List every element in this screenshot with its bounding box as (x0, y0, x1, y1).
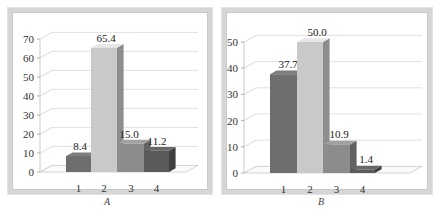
x-tick-label: 3 (334, 183, 340, 195)
y-tick-label: 50 (23, 71, 35, 83)
bar-4 (144, 147, 176, 172)
data-label: 1.4 (359, 153, 373, 165)
y-tick-label: 0 (29, 166, 35, 178)
y-tick-label: 50 (227, 36, 239, 48)
y-tick-label: 20 (23, 128, 35, 140)
data-label: 37.7 (278, 58, 298, 70)
data-label: 65.4 (96, 32, 116, 44)
y-tick-label: 0 (233, 167, 239, 179)
chart-panel-a: 0102030405060708.4165.4215.0311.24 (8, 8, 212, 194)
bar-chart-a: 0102030405060708.4165.4215.0311.24 (12, 12, 216, 198)
x-tick-label: 4 (360, 183, 366, 195)
data-label: 8.4 (73, 140, 87, 152)
x-tick-label: 4 (154, 182, 160, 194)
y-tick-label: 30 (23, 109, 35, 121)
bar-chart-b: 0102030405037.7150.0210.931.44 (226, 12, 435, 198)
y-tick-label: 30 (227, 88, 239, 100)
x-tick-label: 2 (101, 182, 107, 194)
bar-4 (350, 166, 382, 173)
y-tick-label: 10 (23, 147, 35, 159)
y-tick-label: 60 (23, 52, 35, 64)
caption-a: A (104, 196, 110, 207)
y-tick-label: 20 (227, 115, 239, 127)
y-tick-label: 40 (227, 62, 239, 74)
x-tick-label: 3 (128, 182, 134, 194)
x-tick-label: 2 (307, 183, 313, 195)
data-label: 11.2 (148, 135, 167, 147)
data-label: 15.0 (119, 128, 139, 140)
y-tick-label: 70 (23, 33, 35, 45)
bar-3 (323, 141, 357, 173)
data-label: 50.0 (307, 26, 327, 38)
x-tick-label: 1 (76, 182, 82, 194)
chart-panel-b: 0102030405037.7150.0210.931.44 (222, 8, 432, 194)
y-tick-label: 10 (227, 141, 239, 153)
data-label: 10.9 (329, 128, 349, 140)
caption-b: B (318, 196, 324, 207)
y-tick-label: 40 (23, 90, 35, 102)
x-tick-label: 1 (281, 183, 287, 195)
